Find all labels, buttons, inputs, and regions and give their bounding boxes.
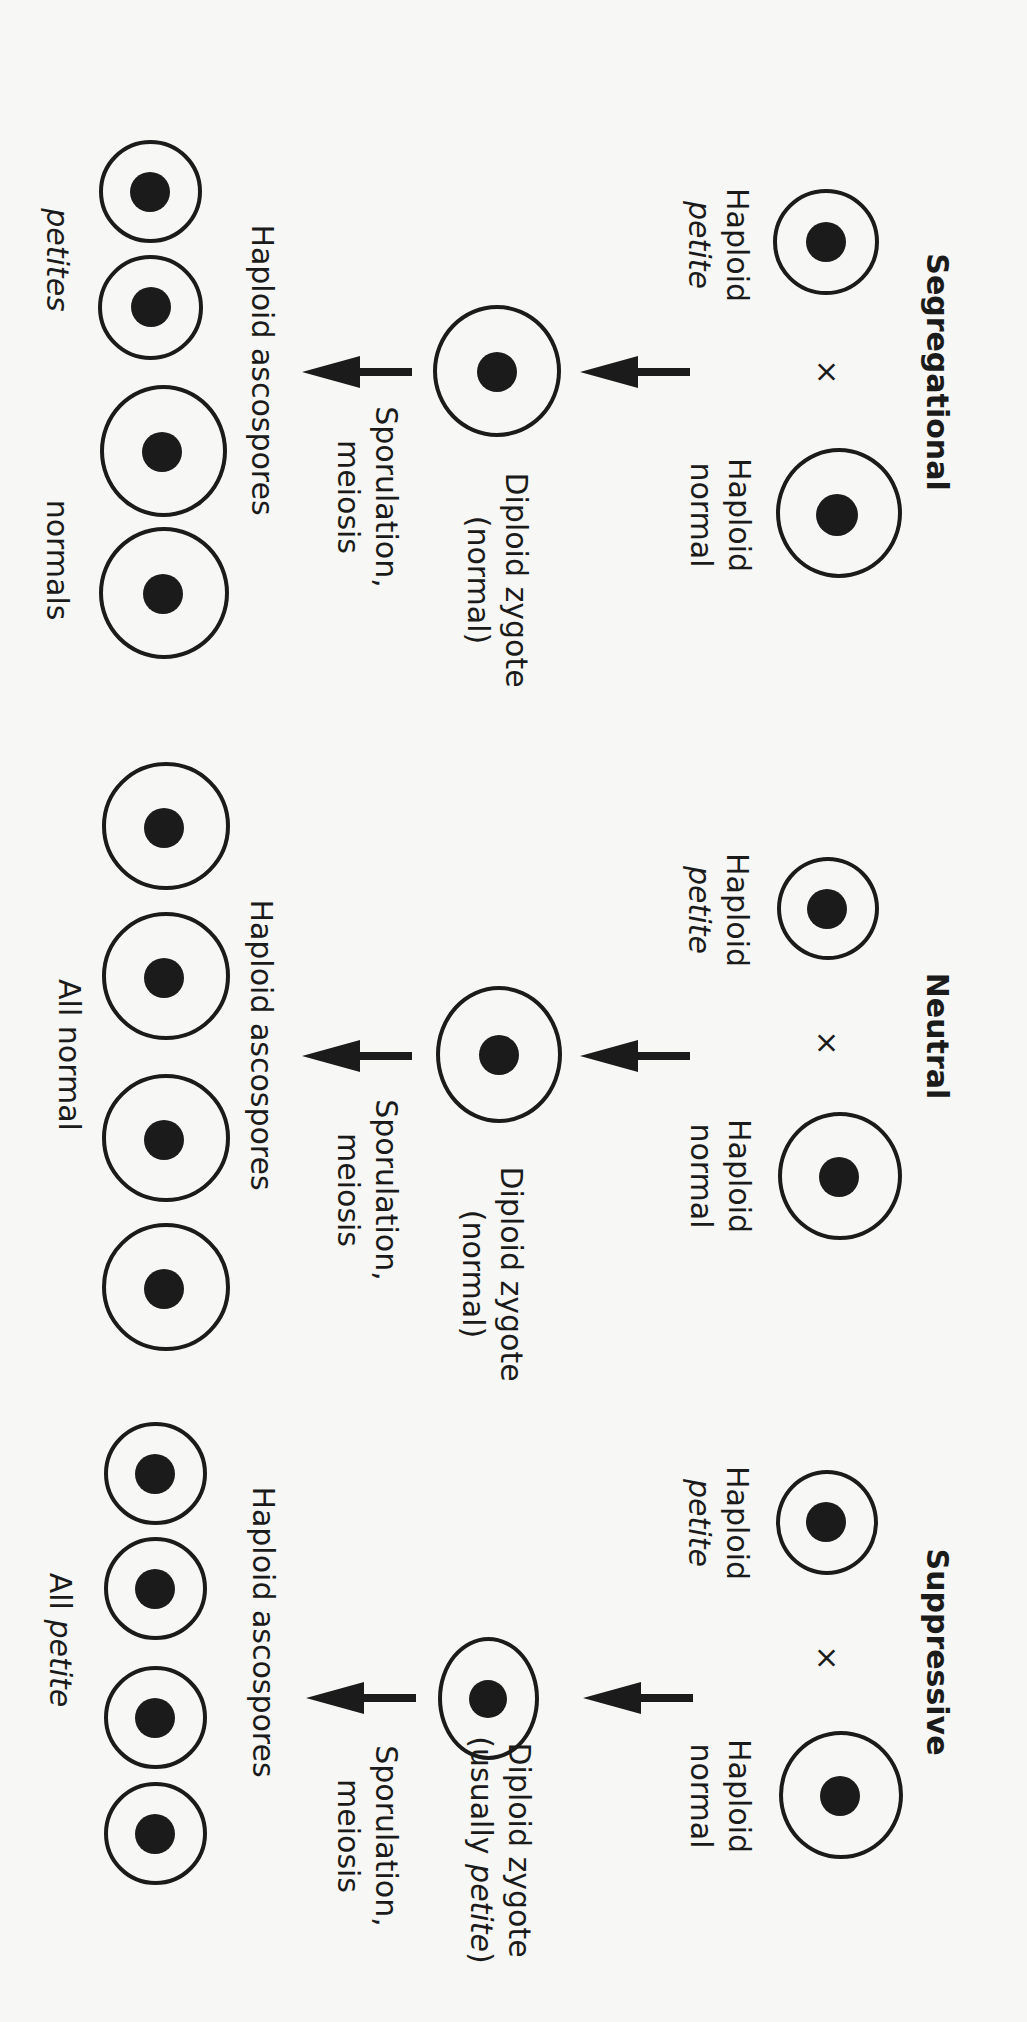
- nucleus-icon: [135, 1814, 175, 1854]
- spore-petite-cell-icon: [104, 1537, 207, 1640]
- nucleus-icon: [144, 1269, 184, 1309]
- parent-petite-label: Haploid petite: [680, 1466, 756, 1580]
- cross-symbol: ×: [810, 359, 845, 384]
- cross-symbol: ×: [810, 1645, 845, 1670]
- parent-normal-label: Haploid normal: [682, 458, 758, 572]
- spores-label: Haploid ascospores: [244, 1486, 282, 1777]
- nucleus-icon: [135, 1454, 175, 1494]
- nucleus-icon: [131, 287, 171, 327]
- nucleus-icon: [135, 1569, 175, 1609]
- outcome-label: All normal: [50, 979, 88, 1131]
- parent-petite-label: Haploid petite: [680, 188, 756, 302]
- arrow-down-icon: [302, 356, 412, 388]
- nucleus-icon: [144, 958, 184, 998]
- panel-title: Suppressive: [920, 1549, 955, 1756]
- haploid-normal-cell-icon: [776, 448, 902, 578]
- spores-label: Haploid ascospores: [242, 899, 280, 1190]
- nucleus-icon: [135, 1698, 175, 1738]
- diploid-zygote-cell-icon: [433, 305, 561, 437]
- arrow-down-icon: [583, 1682, 693, 1714]
- process-label: Sporulation, meiosis: [329, 1099, 405, 1281]
- nucleus-icon: [807, 889, 847, 929]
- spore-normal-cell-icon: [102, 762, 230, 890]
- diploid-zygote-cell-icon: [436, 986, 562, 1123]
- spore-petite-cell-icon: [99, 140, 202, 243]
- haploid-normal-cell-icon: [779, 1731, 903, 1859]
- outcome-label: All petite: [41, 1573, 79, 1708]
- nucleus-icon: [479, 1035, 519, 1075]
- nucleus-icon: [144, 1120, 184, 1160]
- nucleus-icon: [819, 1157, 859, 1197]
- spore-normal-cell-icon: [99, 527, 229, 659]
- process-label: Sporulation, meiosis: [329, 406, 405, 588]
- zygote-label: Diploid zygote (normal): [454, 1166, 530, 1381]
- spore-normal-cell-icon: [100, 385, 227, 517]
- haploid-normal-cell-icon: [778, 1112, 902, 1240]
- parent-normal-label: Haploid normal: [682, 1119, 758, 1233]
- nucleus-icon: [143, 574, 183, 614]
- outcome-normals-label: normals: [38, 500, 76, 621]
- spores-label: Haploid ascospores: [243, 224, 281, 515]
- cross-symbol: ×: [810, 1030, 845, 1055]
- panel-title: Neutral: [920, 973, 955, 1099]
- nucleus-icon: [806, 1502, 846, 1542]
- nucleus-icon: [142, 432, 182, 472]
- arrow-down-icon: [580, 1040, 690, 1072]
- nucleus-icon: [477, 352, 517, 392]
- spore-normal-cell-icon: [102, 1223, 230, 1351]
- spore-normal-cell-icon: [102, 1074, 230, 1202]
- arrow-down-icon: [580, 356, 690, 388]
- spore-petite-cell-icon: [104, 1782, 207, 1885]
- haploid-petite-cell-icon: [777, 857, 879, 960]
- nucleus-icon: [816, 494, 858, 536]
- process-label: Sporulation, meiosis: [329, 1745, 405, 1927]
- outcome-petites-label: petites: [38, 208, 76, 311]
- haploid-petite-cell-icon: [776, 1470, 878, 1575]
- panel-title: Segregational: [920, 253, 955, 490]
- nucleus-icon: [806, 222, 846, 262]
- zygote-label: Diploid zygote (normal): [459, 472, 535, 687]
- petite-cross-diagram: Segregational × Haploid petite Haploid n…: [0, 0, 1027, 2022]
- spore-petite-cell-icon: [104, 1666, 207, 1769]
- nucleus-icon: [469, 1680, 507, 1718]
- zygote-label: Diploid zygote (usually petite): [462, 1736, 538, 1963]
- haploid-petite-cell-icon: [773, 189, 879, 295]
- spore-petite-cell-icon: [104, 1422, 207, 1525]
- spore-petite-cell-icon: [98, 255, 203, 360]
- arrow-down-icon: [306, 1682, 416, 1714]
- nucleus-icon: [130, 172, 170, 212]
- parent-normal-label: Haploid normal: [682, 1739, 758, 1853]
- parent-petite-label: Haploid petite: [680, 853, 756, 967]
- nucleus-icon: [820, 1776, 860, 1816]
- arrow-down-icon: [302, 1040, 412, 1072]
- spore-normal-cell-icon: [102, 912, 230, 1040]
- nucleus-icon: [144, 808, 184, 848]
